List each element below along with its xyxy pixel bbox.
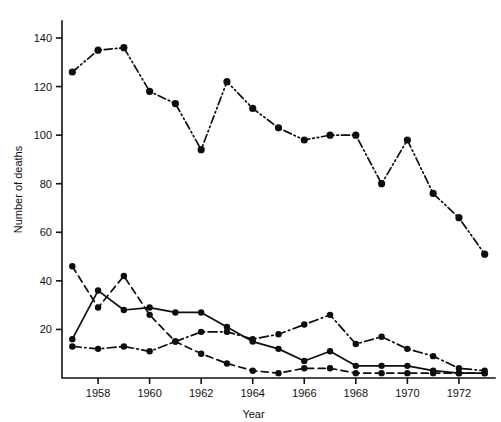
chart-series: [69, 44, 489, 376]
data-point: [120, 44, 127, 51]
x-tick-label: 1966: [292, 387, 316, 399]
data-point: [95, 287, 101, 293]
y-tick-label: 60: [40, 226, 52, 238]
data-point: [275, 346, 281, 352]
y-tick-label: 20: [40, 323, 52, 335]
data-point: [430, 353, 436, 359]
data-point: [378, 363, 384, 369]
data-point: [378, 334, 384, 340]
data-point: [69, 263, 75, 269]
y-tick-label: 120: [34, 81, 52, 93]
data-point: [352, 132, 359, 139]
data-point: [146, 304, 152, 310]
axis-spine: [62, 21, 495, 378]
data-point: [121, 343, 127, 349]
x-tick-label: 1960: [137, 387, 161, 399]
data-point: [95, 346, 101, 352]
data-point: [198, 351, 204, 357]
data-point: [69, 68, 76, 75]
y-tick-label: 40: [40, 275, 52, 287]
data-point: [456, 365, 462, 371]
series-2-group: [69, 263, 488, 376]
data-point: [455, 214, 462, 221]
y-tick-label: 140: [34, 32, 52, 44]
data-point: [301, 358, 307, 364]
data-point: [224, 329, 230, 335]
data-point: [172, 100, 179, 107]
data-point: [275, 370, 281, 376]
data-point: [378, 370, 384, 376]
x-tick-label: 1968: [344, 387, 368, 399]
x-tick-label: 1972: [447, 387, 471, 399]
data-point: [69, 343, 75, 349]
line-chart: 2040608010012014019581960196219641966196…: [0, 0, 501, 422]
data-point: [198, 146, 205, 153]
data-point: [198, 329, 204, 335]
data-point: [146, 88, 153, 95]
data-point: [121, 307, 127, 313]
data-point: [146, 348, 152, 354]
y-tick-label: 100: [34, 129, 52, 141]
y-axis-title: Number of deaths: [12, 145, 24, 233]
data-point: [95, 304, 101, 310]
data-point: [327, 365, 333, 371]
series-line-series-4-dash-dot: [72, 315, 484, 371]
chart-axes: [62, 21, 495, 378]
data-point: [404, 136, 411, 143]
data-point: [404, 370, 410, 376]
data-point: [481, 251, 488, 258]
data-point: [94, 47, 101, 54]
data-point: [301, 136, 308, 143]
x-tick-label: 1970: [395, 387, 419, 399]
data-point: [481, 368, 487, 374]
data-point: [353, 363, 359, 369]
data-point: [327, 348, 333, 354]
data-point: [404, 363, 410, 369]
series-1-group: [69, 44, 489, 258]
data-point: [404, 346, 410, 352]
data-point: [69, 336, 75, 342]
series-4-group: [69, 312, 488, 374]
x-tick-label: 1962: [189, 387, 213, 399]
x-axis-title: Year: [242, 408, 265, 420]
data-point: [275, 124, 282, 131]
y-tick-label: 80: [40, 178, 52, 190]
series-line-series-2-dashed: [72, 266, 484, 373]
data-point: [172, 338, 178, 344]
x-tick-label: 1964: [240, 387, 264, 399]
data-point: [121, 273, 127, 279]
data-point: [224, 360, 230, 366]
chart-figure: 2040608010012014019581960196219641966196…: [0, 0, 501, 422]
data-point: [327, 312, 333, 318]
data-point: [301, 365, 307, 371]
data-point: [198, 309, 204, 315]
x-tick-label: 1958: [86, 387, 110, 399]
data-point: [223, 78, 230, 85]
data-point: [353, 370, 359, 376]
data-point: [250, 368, 256, 374]
data-point: [378, 180, 385, 187]
series-line-series-1-upper: [72, 48, 484, 254]
data-point: [301, 321, 307, 327]
data-point: [353, 341, 359, 347]
data-point: [172, 309, 178, 315]
data-point: [430, 190, 437, 197]
data-point: [249, 105, 256, 112]
data-point: [430, 368, 436, 374]
data-point: [275, 331, 281, 337]
data-point: [326, 132, 333, 139]
data-point: [146, 312, 152, 318]
data-point: [250, 336, 256, 342]
